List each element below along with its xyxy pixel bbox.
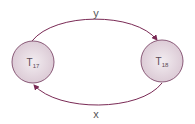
node-t17-label: T17 [27, 57, 40, 69]
node-t17-sub: 17 [33, 63, 40, 69]
edge-y-arrow [32, 19, 157, 41]
edge-label-x: x [93, 108, 99, 120]
node-t18-label: T18 [156, 56, 169, 68]
edge-x-arrow [34, 83, 162, 105]
edge-label-y: y [93, 7, 99, 19]
node-t18-sub: 18 [162, 62, 169, 68]
